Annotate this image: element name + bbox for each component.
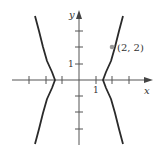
- x-axis-label: x: [144, 85, 150, 96]
- x-tick-label-1: 1: [93, 85, 99, 95]
- y-axis-label: y: [68, 9, 75, 20]
- y-axis-arrow-icon: [76, 10, 82, 19]
- hyperbola-plot: (2, 2) x y 1 1: [0, 0, 158, 152]
- point-label: (2, 2): [117, 42, 144, 53]
- point-marker-icon: [110, 45, 115, 50]
- y-tick-label-1: 1: [68, 59, 74, 69]
- x-axis-arrow-icon: [144, 77, 153, 83]
